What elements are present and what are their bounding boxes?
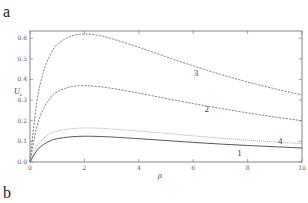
y-tick-label: 0.2 (17, 117, 27, 124)
plot-frame (30, 31, 302, 162)
curve-2 (30, 86, 302, 162)
y-tick-label: 0.1 (17, 137, 27, 144)
line-chart: 0.00.10.20.30.40.50.6 0246810 3241 Ue ρ (0, 0, 308, 203)
curve-4 (30, 128, 302, 162)
y-tick-label: 0.6 (17, 34, 27, 41)
curve-label-3: 3 (194, 68, 199, 78)
curve-labels: 3241 (194, 68, 283, 157)
x-tick-label: 2 (82, 164, 86, 171)
y-tick-label: 0.4 (17, 75, 27, 82)
curve-label-4: 4 (278, 136, 283, 146)
x-axis-ticks: 0246810 (28, 31, 306, 171)
x-tick-label: 10 (298, 164, 306, 171)
y-tick-label: 0.3 (17, 96, 27, 103)
x-tick-label: 4 (137, 164, 141, 171)
x-tick-label: 8 (246, 164, 250, 171)
curve-1 (30, 136, 302, 162)
x-axis-label: ρ (157, 171, 162, 180)
curve-label-1: 1 (237, 148, 242, 158)
x-tick-label: 0 (28, 164, 32, 171)
curves (30, 34, 302, 162)
y-tick-label: 0.0 (17, 158, 27, 165)
curve-label-2: 2 (205, 104, 210, 114)
y-axis-ticks: 0.00.10.20.30.40.50.6 (17, 34, 302, 165)
y-axis-label: Ue (14, 87, 23, 97)
y-tick-label: 0.5 (17, 55, 27, 62)
x-tick-label: 6 (191, 164, 195, 171)
